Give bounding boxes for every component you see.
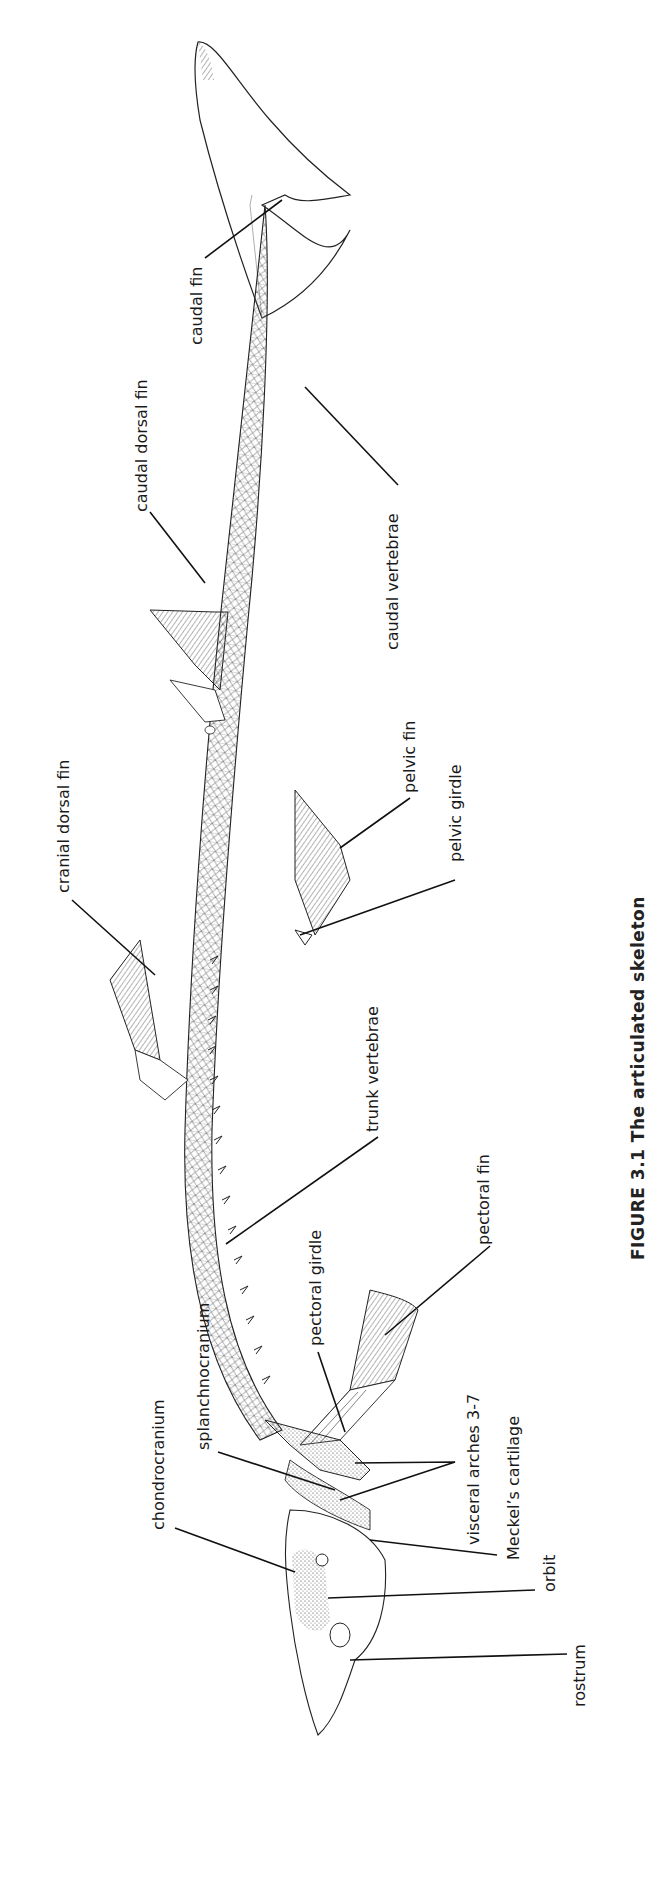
label-trunk-vertebrae: trunk vertebrae — [364, 1006, 382, 1132]
label-visceral-arches: visceral arches 3-7 — [465, 1394, 483, 1545]
vertebral-column-shape — [185, 205, 282, 1440]
skull-shape — [285, 1510, 385, 1735]
label-splanchnocranium: splanchnocranium — [195, 1303, 213, 1450]
caudal-fin-shape — [195, 42, 350, 318]
label-chondrocranium: chondrocranium — [150, 1399, 168, 1530]
label-orbit: orbit — [541, 1555, 559, 1592]
label-caudal-dorsal-fin: caudal dorsal fin — [133, 379, 151, 512]
label-cranial-dorsal-fin: cranial dorsal fin — [55, 759, 73, 893]
label-caudal-vertebrae: caudal vertebrae — [384, 513, 402, 650]
caudal-dorsal-fin-shape — [150, 610, 228, 734]
label-pelvic-girdle: pelvic girdle — [447, 764, 465, 862]
label-pelvic-fin: pelvic fin — [401, 721, 419, 793]
figure-caption: FIGURE 3.1 The articulated skeleton — [628, 896, 648, 1260]
label-pectoral-girdle: pectoral girdle — [307, 1230, 325, 1346]
label-pectoral-fin: pectoral fin — [475, 1154, 493, 1245]
cranial-dorsal-fin-shape — [110, 940, 188, 1100]
pelvic-fin-shape — [295, 790, 350, 945]
label-meckels-cartilage: Meckel’s cartilage — [505, 1416, 523, 1560]
label-caudal-fin: caudal fin — [188, 267, 206, 345]
label-rostrum: rostrum — [571, 1644, 589, 1707]
